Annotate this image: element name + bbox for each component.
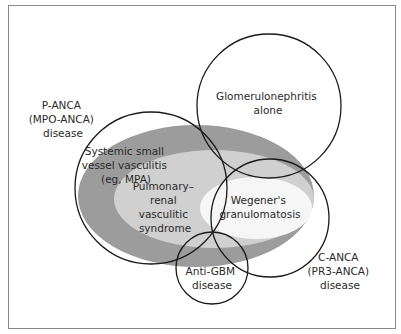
antigbm-label: Anti-GBM disease xyxy=(186,265,239,291)
panca-label: P-ANCA (MPO-ANCA) disease xyxy=(29,99,98,139)
canca-label: C-ANCA (PR3-ANCA) disease xyxy=(308,251,373,291)
venn-diagram: P-ANCA (MPO-ANCA) disease Glomerulonephr… xyxy=(0,0,401,334)
glomerulonephritis-label: Glomerulonephritis alone xyxy=(216,90,320,116)
